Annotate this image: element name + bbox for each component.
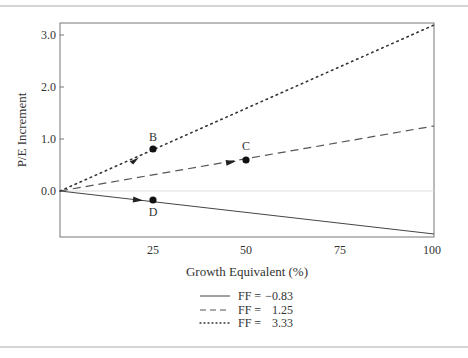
x-tick-label: 25	[147, 243, 159, 257]
point-label: B	[149, 130, 157, 144]
legend-prefix: FF =	[238, 289, 261, 303]
legend-value: −0.83	[265, 289, 293, 303]
point-c	[242, 156, 249, 163]
x-axis: 25 50 75 100 Growth Equivalent (%)	[147, 243, 441, 279]
y-tick-label: 0.0	[41, 184, 56, 198]
x-tick-label: 75	[334, 243, 346, 257]
plot-frame	[60, 23, 434, 237]
x-axis-label: Growth Equivalent (%)	[186, 264, 308, 279]
legend-prefix: FF =	[238, 316, 261, 330]
series-solid	[60, 191, 434, 234]
legend-value: 3.33	[272, 316, 293, 330]
chart: 3.0 2.0 1.0 0.0 P/E Increment 25 50 75 1…	[0, 0, 468, 358]
y-axis-label: P/E Increment	[14, 92, 29, 167]
arrow-icon	[226, 158, 237, 166]
x-tick-label: 50	[240, 243, 252, 257]
point-b	[149, 145, 156, 152]
y-tick-label: 1.0	[41, 132, 56, 146]
y-tick-label: 2.0	[41, 80, 56, 94]
point-label: C	[242, 139, 250, 153]
point-label: D	[149, 205, 158, 219]
series-dotted	[60, 25, 434, 191]
arrow-icon	[133, 196, 144, 203]
legend: FF = FF = FF = −0.83 1.25 3.33	[200, 289, 293, 330]
y-tick-label: 3.0	[41, 28, 56, 42]
legend-prefix: FF =	[238, 303, 261, 317]
x-tick-label: 100	[423, 243, 441, 257]
point-d	[149, 196, 156, 203]
y-axis: 3.0 2.0 1.0 0.0 P/E Increment	[14, 28, 64, 198]
legend-value: 1.25	[272, 303, 293, 317]
